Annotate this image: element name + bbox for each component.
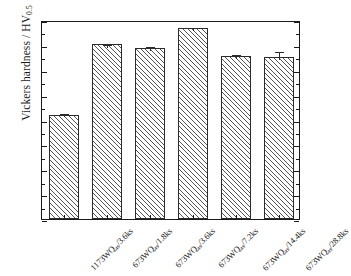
x-axis-label-tail: /28.8ks: [326, 226, 350, 250]
x-axis-label: 673WQas/1.8ks: [130, 226, 174, 270]
x-axis-label-main: 1173WQ: [88, 244, 117, 273]
x-axis-label: 673WQas/7.2ks: [216, 226, 260, 270]
x-axis-label: 673WQas/3.6ks: [173, 226, 217, 270]
x-axis-label-tail: /14.4ks: [283, 226, 307, 250]
x-axis-label: 1173WQas/3.6ks: [88, 226, 135, 273]
x-axis-label-tail: /1.8ks: [152, 226, 173, 247]
x-axis-label: 673WQas/14.4ks: [261, 226, 308, 273]
x-axis-label: 673WQas/28.8ks: [304, 226, 351, 273]
x-axis-label-tail: /7.2ks: [239, 226, 260, 247]
x-axis-label-tail: /3.6ks: [196, 226, 217, 247]
